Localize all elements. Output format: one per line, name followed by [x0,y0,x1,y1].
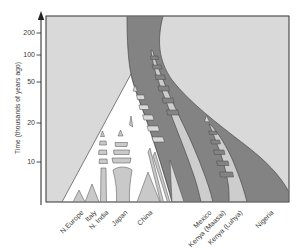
y-tick-label: 100 [23,51,35,58]
x-axis-label: Japan [110,209,129,228]
y-tick-label: 200 [23,29,35,36]
y-tick-label: 10 [27,158,35,165]
x-axis-labels: N.EuropeItalyN. IndiaJapanChinaMexicoKen… [59,208,276,249]
leaf-n-india-stem [101,168,107,202]
y-axis-arrow-icon [38,11,44,20]
x-axis-label: N.Europe [59,209,86,236]
y-axis: 200100502010 Time (thousands of years ag… [14,11,44,205]
population-genealogy-chart: 200100502010 Time (thousands of years ag… [0,0,302,249]
y-tick-label: 20 [27,119,35,126]
y-tick-label: 50 [27,78,35,85]
y-axis-label: Time (thousands of years ago) [14,62,22,154]
x-axis-label: Nigeria [254,209,275,230]
figure: 200100502010 Time (thousands of years ag… [0,0,302,249]
x-axis-label: China [136,209,154,227]
y-axis-ticks: 200100502010 [23,29,41,165]
